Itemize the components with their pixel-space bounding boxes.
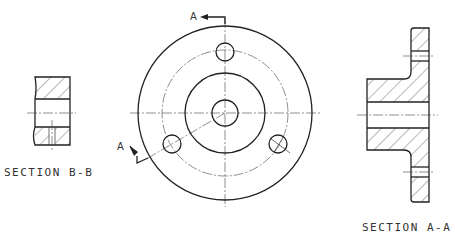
section-bb-hatch-top [35, 77, 70, 99]
front-view: A A [117, 11, 320, 207]
section-aa-hatch-upper [367, 61, 429, 102]
cutting-plane-label-left: A [117, 141, 124, 152]
section-aa-hatch-lower [367, 128, 429, 167]
cutting-plane-arrow-top [200, 14, 208, 20]
section-bb-view: SECTION B-B [4, 77, 93, 179]
cutting-plane-label-top: A [190, 11, 197, 22]
section-aa-label: SECTION A-A [362, 221, 451, 234]
section-aa-view: SECTION A-A [357, 28, 451, 234]
cutting-plane-leg-left [137, 156, 148, 163]
section-bb-label: SECTION B-B [4, 166, 93, 179]
drawing-canvas: SECTION B-B A A [0, 0, 455, 243]
